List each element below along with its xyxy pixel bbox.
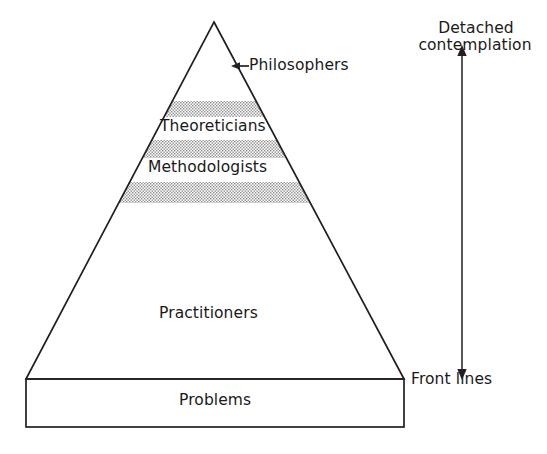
label-theoreticians: Theoreticians (160, 118, 266, 135)
pyramid-diagram: Philosophers Theoreticians Methodologist… (0, 0, 547, 454)
shaded-band-methodologists-bottom (0, 182, 547, 203)
label-front-lines: Front lines (411, 371, 492, 388)
shaded-band-group (0, 101, 547, 203)
contemplation-axis-arrow (457, 45, 466, 380)
label-problems: Problems (179, 392, 251, 409)
shaded-band-theoreticians-top (0, 101, 547, 117)
label-detached-contemplation: Detached contemplation (410, 20, 542, 55)
label-practitioners: Practitioners (159, 305, 258, 322)
detached-contemplation-line-2: contemplation (408, 37, 542, 54)
shaded-band-theoreticians-bottom (0, 140, 547, 158)
philosophers-callout-arrow (231, 62, 249, 70)
label-philosophers: Philosophers (249, 57, 349, 74)
detached-contemplation-line-1: Detached (438, 19, 514, 37)
label-methodologists: Methodologists (148, 159, 267, 176)
